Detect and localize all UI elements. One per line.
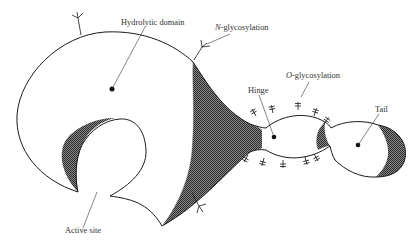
o-glyco-mark [268, 105, 276, 114]
o-glyco-mark [249, 108, 258, 118]
label-n-suffix: -glycosylation [221, 23, 270, 32]
label-active-site: Active site [65, 226, 101, 235]
o-glyco-mark [280, 160, 286, 168]
leader-n-glycosylation [207, 34, 230, 44]
label-o-glycosylation: O-glycosylation [286, 71, 341, 80]
leader-hydrolytic-domain [112, 27, 145, 89]
leader-active-site [83, 192, 97, 228]
o-glycosylation-marks-top [249, 102, 331, 126]
label-hinge: Hinge [248, 86, 269, 95]
o-glyco-mark [259, 157, 267, 166]
n-glycosylation-mark-top-left [72, 12, 83, 35]
hydrolytic-domain-shading [162, 62, 262, 226]
protein-domain-diagram: Hydrolytic domain N-glycosylation O-glyc… [0, 0, 418, 245]
active-site-cleft-shading [62, 118, 115, 192]
o-glyco-mark [295, 102, 301, 110]
label-n-glycosylation: N-glycosylation [214, 23, 269, 32]
tail-shading [376, 125, 406, 177]
o-glyco-mark [311, 107, 319, 116]
label-tail: Tail [375, 105, 389, 114]
leader-tail [358, 114, 379, 145]
n-glycosylation-mark-top-right [194, 40, 210, 60]
hinge-shading [316, 122, 330, 150]
o-glycosylation-marks-bottom [241, 153, 320, 169]
label-hydrolytic-domain: Hydrolytic domain [121, 18, 185, 27]
label-o-suffix: -glycosylation [292, 71, 341, 80]
o-glyco-mark [302, 156, 310, 165]
leader-o-glycosylation [301, 82, 309, 97]
